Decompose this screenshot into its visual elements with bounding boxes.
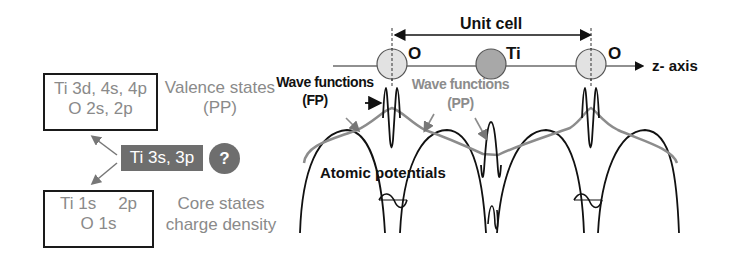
wave-functions-fp-label: Wave functions (FP) [270,73,380,109]
atom-label-o-right: O [608,44,621,64]
z-axis-label: z- axis [652,57,698,74]
diagram-graphics [0,0,737,258]
core-wavefunction-wiggles [379,194,602,229]
wave-pp-line1: Wave functions [403,75,518,94]
unit-cell-label: Unit cell [460,15,522,33]
wave-fp-line2: (FP) [250,91,380,109]
wave-functions-pp-label: Wave functions (PP) [403,75,518,113]
wave-fp-line1: Wave functions [270,73,380,91]
atomic-potentials-curves [300,130,679,233]
atom-label-o-left: O [408,44,421,64]
wave-pp-line2: (PP) [403,94,518,113]
semicore-arrows [93,137,117,183]
atomic-potentials-label: Atomic potentials [320,164,446,181]
atom-label-ti: Ti [506,44,521,64]
